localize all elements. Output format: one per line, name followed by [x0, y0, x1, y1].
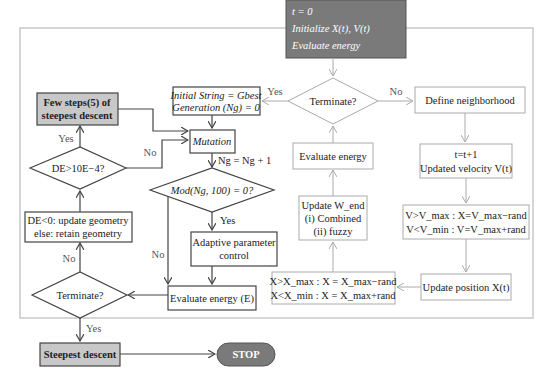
velocity-line1: t=t+1 [455, 149, 478, 160]
wend-line1: Update W_end [301, 200, 365, 211]
update-geometry-line1: DE<0: update geometry [28, 215, 130, 226]
de-check-label: DE>10E−4? [52, 163, 105, 174]
x-bounds-box: X>X_max : X = X_max−rand X<X_min : X = X… [270, 272, 398, 304]
v-bounds-line2: V<V_min : V=V_max+rand [406, 224, 526, 235]
label-no-mod: No [152, 249, 165, 260]
initial-string-box: Initial String = Gbest Generation (Ng) =… [170, 87, 263, 115]
adaptive-line2: control [219, 250, 249, 261]
wend-line2: (i) Combined [305, 213, 362, 225]
label-no-terminate-left: No [63, 253, 76, 264]
adaptive-box: Adaptive parameter control [191, 232, 277, 266]
stop-terminal: STOP [217, 343, 275, 366]
few-steps-line1: Few steps(5) of [43, 97, 111, 109]
de-check-diamond: DE>10E−4? [30, 147, 126, 189]
terminate-left-diamond: Terminate? [32, 272, 127, 318]
stop-label: STOP [232, 349, 260, 360]
start-block: t = 0 Initialize X(t), V(t) Evaluate ene… [286, 0, 406, 58]
flowchart-canvas: t = 0 Initialize X(t), V(t) Evaluate ene… [0, 0, 550, 380]
evaluate-energy-e-label: Evaluate energy (E) [170, 293, 254, 305]
steepest-descent-label: Steepest descent [44, 349, 117, 360]
x-bounds-line1: X>X_max : X = X_max−rand [270, 276, 398, 287]
few-steps-line2: steepest descent [42, 110, 113, 121]
terminate-top-label: Terminate? [309, 96, 356, 107]
velocity-update-box: t=t+1 Updated velocity V(t) [420, 144, 512, 178]
mod-check-label: Mod(Ng, 100) = 0? [170, 185, 254, 197]
label-yes-mod: Yes [220, 215, 235, 226]
evaluate-energy-label: Evaluate energy [299, 151, 367, 162]
mutation-label: Mutation [192, 136, 232, 147]
v-bounds-line1: V>V_max : X=V_max−rand [405, 210, 527, 221]
label-yes-terminate-top: Yes [267, 86, 282, 97]
update-geometry-line2: else: retain geometry [34, 228, 123, 239]
update-position-label: Update position X(t) [423, 282, 510, 294]
terminate-top-diamond: Terminate? [288, 78, 378, 124]
velocity-line2: Updated velocity V(t) [420, 163, 512, 175]
evaluate-energy-box: Evaluate energy [293, 143, 373, 169]
few-steps-box: Few steps(5) of steepest descent [37, 93, 118, 125]
terminate-left-label: Terminate? [56, 290, 103, 301]
mutation-box: Mutation [190, 130, 235, 153]
label-yes-few-steps: Yes [58, 133, 73, 144]
update-position-box: Update position X(t) [421, 274, 511, 300]
update-geometry-box: DE<0: update geometry else: retain geome… [25, 212, 132, 242]
start-line3: Evaluate energy [291, 40, 360, 51]
ng-increment-label: Ng = Ng + 1 [218, 155, 271, 166]
x-bounds-line2: X<X_min : X = X_max+rand [270, 290, 396, 301]
evaluate-energy-e-box: Evaluate energy (E) [168, 286, 256, 310]
initial-string-line2: Generation (Ng) = 0 [172, 102, 260, 114]
label-no-terminate-top: No [390, 86, 403, 97]
v-bounds-box: V>V_max : X=V_max−rand V<V_min : V=V_max… [403, 205, 529, 239]
initial-string-line1: Initial String = Gbest [170, 90, 263, 101]
define-neighborhood-label: Define neighborhood [425, 95, 515, 106]
label-yes-terminate-left: Yes [86, 323, 101, 334]
start-line2: Initialize X(t), V(t) [291, 23, 370, 35]
adaptive-line1: Adaptive parameter [192, 237, 276, 248]
edge-de-no [126, 140, 188, 168]
update-wend-box: Update W_end (i) Combined (ii) fuzzy [299, 196, 367, 240]
start-line1: t = 0 [292, 6, 313, 17]
define-neighborhood-box: Define neighborhood [415, 87, 525, 113]
wend-line3: (ii) fuzzy [314, 226, 354, 238]
steepest-descent-box: Steepest descent [40, 343, 120, 366]
label-no-de: No [144, 147, 157, 158]
